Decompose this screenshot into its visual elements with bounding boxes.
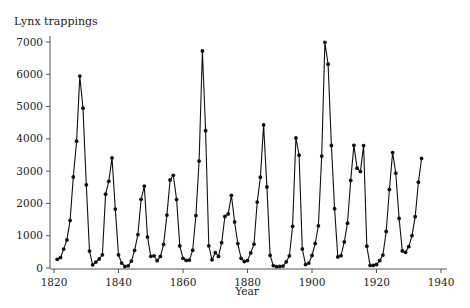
- data-point: [300, 247, 304, 251]
- data-point: [265, 185, 269, 189]
- data-point: [126, 264, 130, 268]
- data-point: [155, 259, 159, 263]
- data-point: [233, 220, 237, 224]
- data-point: [159, 255, 163, 259]
- data-point: [81, 106, 85, 110]
- data-point: [281, 264, 285, 268]
- x-tick-label: 1840: [105, 276, 132, 288]
- data-point: [117, 253, 121, 257]
- data-point: [207, 244, 211, 248]
- data-point: [333, 207, 337, 211]
- data-point: [346, 221, 350, 225]
- data-point: [178, 244, 182, 248]
- data-point: [397, 217, 401, 221]
- data-point: [246, 259, 250, 263]
- data-point: [226, 212, 230, 216]
- y-tick-label: 7000: [16, 36, 43, 48]
- data-point: [194, 214, 198, 218]
- data-point: [259, 175, 263, 179]
- data-point: [171, 173, 175, 177]
- data-point: [136, 233, 140, 237]
- data-point: [133, 249, 137, 253]
- y-tick-label: 3000: [16, 165, 43, 177]
- data-point: [365, 244, 369, 248]
- data-point: [413, 215, 417, 219]
- data-point: [204, 129, 208, 133]
- data-point: [175, 198, 179, 202]
- data-point: [320, 154, 324, 158]
- data-point: [307, 261, 311, 265]
- data-point: [236, 242, 240, 246]
- data-point: [317, 224, 321, 228]
- data-point: [191, 248, 195, 252]
- y-tick-label: 5000: [16, 100, 43, 112]
- data-point: [123, 265, 127, 269]
- data-point: [78, 74, 82, 78]
- y-tick-label: 0: [36, 262, 43, 274]
- data-point: [168, 178, 172, 182]
- chart-title: Lynx trappings: [14, 15, 98, 28]
- data-point: [284, 260, 288, 264]
- data-point: [213, 251, 217, 255]
- data-point: [420, 157, 424, 161]
- data-point: [197, 159, 201, 163]
- data-point: [310, 254, 314, 258]
- data-point: [62, 247, 66, 251]
- data-point: [97, 257, 101, 261]
- data-point: [113, 207, 117, 211]
- y-tick-label: 2000: [16, 197, 43, 209]
- data-point: [410, 234, 414, 238]
- y-axis: 01000200030004000500060007000: [16, 36, 50, 274]
- lynx-trappings-chart: Lynx trappings 0100020003000400050006000…: [0, 0, 470, 308]
- data-point: [288, 254, 292, 258]
- lynx-series-line: [57, 42, 421, 266]
- data-point: [104, 192, 108, 196]
- data-point: [394, 171, 398, 175]
- data-point: [362, 144, 366, 148]
- data-point: [297, 153, 301, 157]
- data-point: [110, 156, 114, 160]
- data-point: [252, 242, 256, 246]
- y-tick-label: 4000: [16, 132, 43, 144]
- data-point: [68, 219, 72, 223]
- data-point: [294, 136, 298, 140]
- data-point: [152, 254, 156, 258]
- data-point: [378, 259, 382, 263]
- data-point: [339, 254, 343, 258]
- data-point: [330, 144, 334, 148]
- data-point: [349, 179, 353, 183]
- data-point: [359, 170, 363, 174]
- data-point: [188, 258, 192, 262]
- data-point: [130, 259, 134, 263]
- data-point: [342, 240, 346, 244]
- data-point: [242, 260, 246, 264]
- data-point: [220, 241, 224, 245]
- data-point: [94, 260, 98, 264]
- y-tick-label: 6000: [16, 68, 43, 80]
- data-point: [146, 235, 150, 239]
- data-point: [326, 62, 330, 66]
- data-point: [384, 230, 388, 234]
- x-tick-label: 1900: [299, 276, 326, 288]
- data-point: [91, 263, 95, 267]
- x-axis-label: Year: [234, 285, 259, 297]
- data-point: [381, 253, 385, 257]
- data-point: [142, 184, 146, 188]
- data-point: [88, 249, 92, 253]
- data-point: [75, 139, 79, 143]
- data-point: [249, 251, 253, 255]
- data-point: [162, 243, 166, 247]
- data-point: [165, 213, 169, 217]
- data-point: [375, 263, 379, 267]
- data-point: [71, 175, 75, 179]
- lynx-series-markers: [55, 40, 423, 268]
- data-point: [262, 123, 266, 127]
- data-point: [313, 242, 317, 246]
- data-point: [255, 200, 259, 204]
- data-point: [223, 215, 227, 219]
- x-tick-label: 1940: [428, 276, 455, 288]
- x-tick-label: 1820: [41, 276, 68, 288]
- data-point: [107, 179, 111, 183]
- data-point: [84, 183, 88, 187]
- data-point: [268, 254, 272, 258]
